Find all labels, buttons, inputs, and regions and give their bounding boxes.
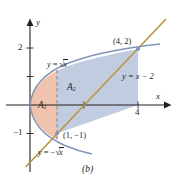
- label-y-equals-minus-sqrt-x: y=−√x: [38, 147, 64, 157]
- label-point-1-minus-1: (1, −1): [63, 131, 86, 140]
- label-point-4-2: (4, 2): [113, 37, 131, 46]
- label-sqrt-lhs: y: [47, 59, 51, 69]
- label-y-equals-x-minus-2: y = x − 2: [122, 72, 154, 81]
- point-1-minus-1-dot: [55, 132, 59, 136]
- y-tick-label-2: 2: [18, 43, 23, 52]
- figure-caption: (b): [82, 165, 93, 175]
- label-negsqrt-eq: =: [44, 147, 49, 157]
- point-4-2-dot: [136, 47, 140, 51]
- y-axis-arrow: [27, 19, 34, 27]
- label-negsqrt-radicand: x: [59, 147, 64, 157]
- label-negsqrt-lhs: y: [38, 147, 42, 157]
- label-region-a2: A2: [67, 83, 76, 93]
- integration-area-figure: [0, 0, 177, 181]
- label-sqrt-radicand: x: [63, 59, 68, 69]
- x-axis-arrow: [164, 102, 172, 109]
- y-tick-label-minus-1: −1: [13, 128, 23, 137]
- label-region-a2-subscript: 2: [73, 86, 76, 92]
- label-region-a1-subscript: 1: [44, 104, 47, 110]
- x-tick-label-4: 4: [135, 108, 140, 117]
- label-sqrt-eq: =: [53, 59, 58, 69]
- label-y-equals-sqrt-x: y=√x: [47, 59, 68, 69]
- label-region-a1: A1: [38, 101, 47, 111]
- y-axis-label: y: [36, 18, 40, 27]
- x-axis-label: x: [156, 92, 160, 101]
